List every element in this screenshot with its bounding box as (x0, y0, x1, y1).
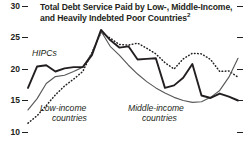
series-line-hipcs (28, 30, 238, 101)
series-annotation-middle-income-line-1: Middle-income (128, 103, 184, 113)
series-annotation-low-income: Low-income countries (40, 103, 87, 123)
series-annotation-low-income-line-1: Low-income (40, 103, 86, 113)
series-annotation-hipcs: HIPCs (32, 48, 57, 58)
series-annotation-low-income-line-2: countries (40, 113, 87, 123)
chart-figure: Total Debt Service Paid by Low-, Middle-… (0, 0, 244, 146)
series-annotation-middle-income: Middle-income countries (128, 103, 184, 123)
plot-area (0, 0, 244, 146)
series-annotation-middle-income-line-2: countries (128, 113, 177, 123)
